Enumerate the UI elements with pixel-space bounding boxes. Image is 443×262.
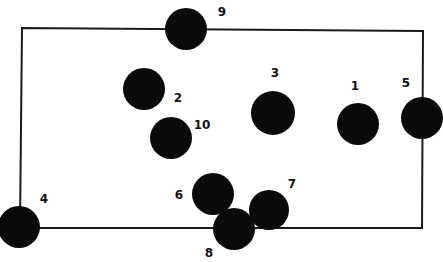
node-circle-icon bbox=[401, 97, 443, 139]
node-8: 8 bbox=[205, 208, 255, 260]
node-label: 7 bbox=[288, 177, 296, 191]
node-label: 1 bbox=[351, 79, 359, 93]
node-label: 8 bbox=[205, 246, 213, 260]
node-label: 4 bbox=[40, 192, 48, 206]
node-4: 4 bbox=[0, 192, 48, 248]
node-circle-icon bbox=[337, 103, 379, 145]
node-label: 3 bbox=[271, 66, 279, 80]
node-circle-icon bbox=[192, 173, 234, 215]
node-circle-icon bbox=[0, 206, 40, 248]
node-circle-icon bbox=[213, 208, 255, 250]
node-6: 6 bbox=[175, 173, 234, 215]
node-3: 3 bbox=[251, 66, 295, 135]
node-label: 6 bbox=[175, 188, 183, 202]
node-7: 7 bbox=[249, 177, 296, 230]
node-circle-icon bbox=[251, 91, 295, 135]
node-label: 5 bbox=[402, 76, 410, 90]
node-circle-icon bbox=[150, 117, 192, 159]
node-label: 9 bbox=[218, 5, 226, 19]
node-group: 12345678910 bbox=[0, 5, 443, 260]
node-2: 2 bbox=[123, 68, 182, 110]
node-9: 9 bbox=[165, 5, 226, 50]
node-circle-icon bbox=[165, 8, 207, 50]
node-label: 2 bbox=[174, 91, 182, 105]
node-circle-icon bbox=[249, 190, 289, 230]
node-1: 1 bbox=[337, 79, 379, 145]
node-10: 10 bbox=[150, 117, 210, 159]
node-circle-icon bbox=[123, 68, 165, 110]
placement-diagram: 12345678910 bbox=[0, 0, 443, 262]
node-label: 10 bbox=[194, 118, 211, 132]
